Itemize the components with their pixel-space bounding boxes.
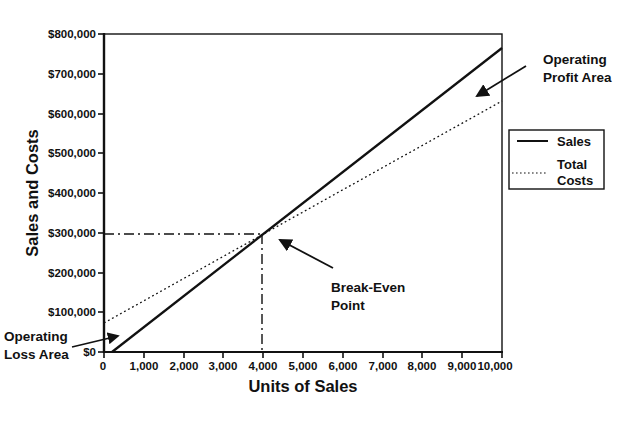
chart-canvas: $800,000 $700,000 $600,000 $500,000 $400… [0,0,631,432]
operating-loss-label-line1: Operating [4,329,68,344]
y-tick-label: $700,000 [48,68,96,80]
y-tick-label: $800,000 [48,28,96,40]
x-tick-label: 5,000 [289,360,318,372]
legend-total-costs-label-line1: Total [557,157,587,172]
break-even-label-line1: Break-Even [331,280,405,295]
plot-area-border [104,34,502,352]
x-tick-label: 2,000 [170,360,199,372]
operating-profit-label-line2: Profit Area [543,70,612,85]
y-tick-label: $500,000 [48,147,96,159]
operating-loss-label-line2: Loss Area [4,347,69,362]
total-costs-line [104,101,502,323]
y-tick-label: $100,000 [48,306,96,318]
x-axis-title: Units of Sales [248,377,357,395]
y-tick-label: $600,000 [48,108,96,120]
x-tick-label: 6,000 [329,360,358,372]
legend: Sales Total Costs [509,130,604,189]
sales-line [112,48,502,352]
y-tick-label: $200,000 [48,267,96,279]
x-tick-label: 8,000 [408,360,437,372]
x-tick-label: 0 [100,360,106,372]
x-tick-label: 7,000 [369,360,398,372]
break-even-chart-figure: $800,000 $700,000 $600,000 $500,000 $400… [0,0,631,432]
x-tick-label: 10,000 [477,360,512,372]
break-even-label-line2: Point [331,298,365,313]
y-tick-label: $300,000 [48,227,96,239]
y-axis-title: Sales and Costs [23,129,41,256]
y-tick-label: $400,000 [48,187,96,199]
y-tick-label: $0 [83,346,96,358]
x-tick-label: 4,000 [249,360,278,372]
operating-profit-label-line1: Operating [543,52,607,67]
x-tick-label: 1,000 [130,360,159,372]
x-tick-label: 3,000 [209,360,238,372]
break-even-arrow [280,240,333,268]
legend-sales-label: Sales [557,134,591,149]
legend-total-costs-label-line2: Costs [557,173,593,188]
x-tick-label: 9,000 [448,360,477,372]
